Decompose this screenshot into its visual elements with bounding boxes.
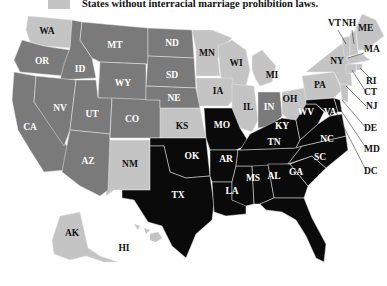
label-co: CO <box>125 114 139 124</box>
state-hi[interactable] <box>134 224 162 242</box>
label-ne: NE <box>167 93 180 103</box>
label-ca: CA <box>23 122 37 132</box>
label-wa: WA <box>39 26 54 36</box>
label-az: AZ <box>81 156 94 166</box>
label-nv: NV <box>53 103 67 113</box>
label-de: DE <box>364 123 377 133</box>
state-ct[interactable] <box>346 64 356 74</box>
label-ak: AK <box>65 228 80 238</box>
label-id: ID <box>75 64 86 74</box>
state-mi[interactable] <box>252 50 276 86</box>
label-mn: MN <box>199 48 215 58</box>
label-va: VA <box>324 107 337 117</box>
label-nh: NH <box>342 18 357 28</box>
label-tx: TX <box>171 190 184 200</box>
label-fl: FL <box>316 208 328 218</box>
us-map: WA OR CA ID NV MT WY UT AZ CO NM ND SD N… <box>0 0 387 286</box>
label-hi: HI <box>118 243 129 253</box>
label-ga: GA <box>289 167 303 177</box>
label-wv: WV <box>298 107 315 117</box>
label-dc: DC <box>364 166 378 176</box>
label-nm: NM <box>122 159 138 169</box>
label-al: AL <box>267 171 280 181</box>
label-me: ME <box>358 23 373 33</box>
label-ar: AR <box>219 154 233 164</box>
label-vt: VT <box>328 18 342 28</box>
label-wy: WY <box>115 78 132 88</box>
label-ks: KS <box>176 121 189 131</box>
state-ak[interactable] <box>52 212 118 262</box>
label-ok: OK <box>185 151 200 161</box>
label-mt: MT <box>107 40 123 50</box>
label-ri: RI <box>366 76 377 86</box>
label-sc: SC <box>314 152 326 162</box>
label-md: MD <box>364 144 380 154</box>
label-wi: WI <box>229 58 243 68</box>
label-ny: NY <box>330 56 344 66</box>
label-ma: MA <box>364 44 380 54</box>
label-nd: ND <box>165 38 179 48</box>
label-nc: NC <box>320 134 334 144</box>
label-pa: PA <box>314 80 326 90</box>
label-ky: KY <box>275 121 289 131</box>
label-in: IN <box>264 102 275 112</box>
label-mo: MO <box>214 120 230 130</box>
label-mi: MI <box>266 70 279 80</box>
label-ms: MS <box>246 173 260 183</box>
label-la: LA <box>225 186 238 196</box>
label-tn: TN <box>267 137 280 147</box>
label-il: IL <box>243 102 253 112</box>
label-oh: OH <box>283 94 298 104</box>
label-ut: UT <box>85 109 99 119</box>
label-ia: IA <box>213 86 224 96</box>
label-nj: NJ <box>366 101 378 111</box>
label-sd: SD <box>166 70 178 80</box>
label-or: OR <box>35 56 49 66</box>
label-ct: CT <box>364 87 378 97</box>
